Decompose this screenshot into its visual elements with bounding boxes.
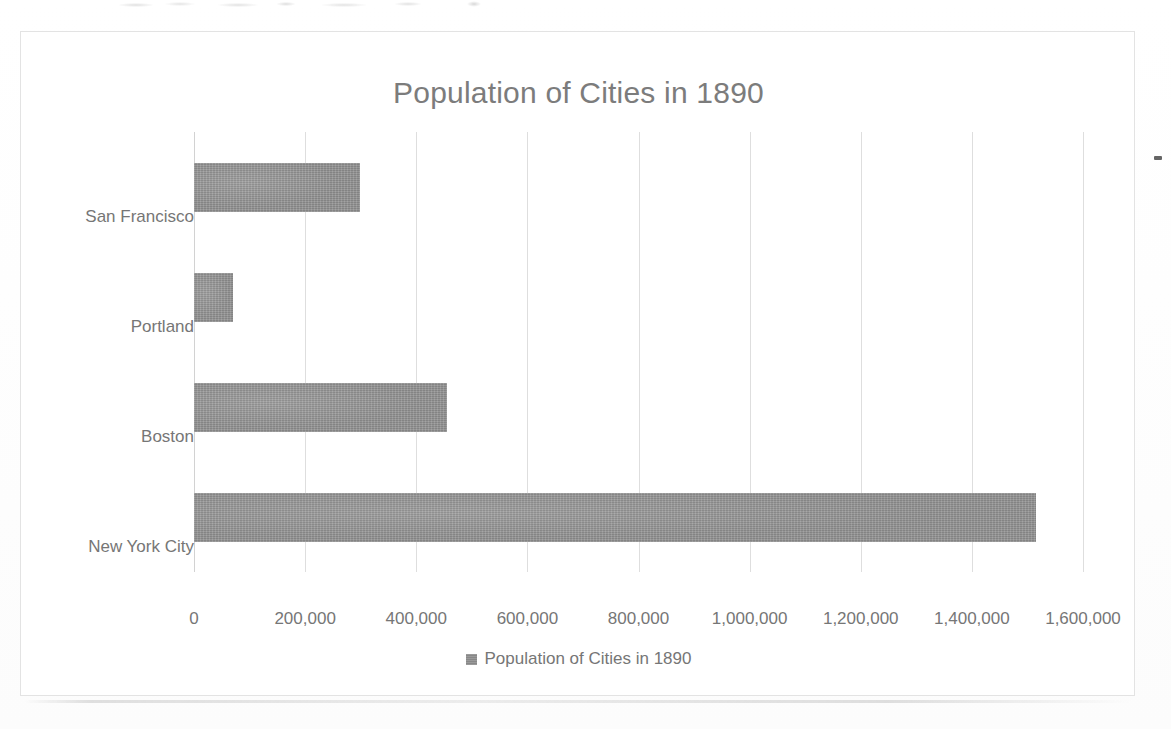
tick-label: 800,000 — [608, 609, 669, 629]
bar — [194, 493, 1036, 542]
legend-color-swatch — [466, 654, 477, 665]
tick-label: 1,400,000 — [934, 609, 1010, 629]
category-label: Boston — [24, 427, 194, 447]
category-label: New York City — [24, 537, 194, 557]
tick-label: 0 — [189, 609, 198, 629]
legend-label: Population of Cities in 1890 — [485, 649, 692, 669]
tick-label: 1,600,000 — [1045, 609, 1121, 629]
category-label: San Francisco — [24, 207, 194, 227]
bar — [194, 273, 233, 322]
chart-legend: Population of Cities in 1890 — [21, 649, 1136, 669]
bar — [194, 383, 447, 432]
tick-label: 600,000 — [497, 609, 558, 629]
bar — [194, 163, 360, 212]
gridline — [1083, 132, 1084, 572]
chart-title: Population of Cities in 1890 — [21, 76, 1136, 110]
tick-label: 400,000 — [386, 609, 447, 629]
tick-label: 200,000 — [274, 609, 335, 629]
category-label: Portland — [24, 317, 194, 337]
value-axis-tick-labels: 0200,000400,000600,000800,0001,000,0001,… — [194, 609, 1083, 639]
tick-label: 1,000,000 — [712, 609, 788, 629]
scan-artifact-edge-mark — [1154, 156, 1162, 160]
plot-area — [194, 132, 1083, 572]
chart-frame: Population of Cities in 1890 New York Ci… — [20, 31, 1135, 696]
tick-label: 1,200,000 — [823, 609, 899, 629]
category-axis-labels: New York CityBostonPortlandSan Francisco — [21, 163, 194, 603]
